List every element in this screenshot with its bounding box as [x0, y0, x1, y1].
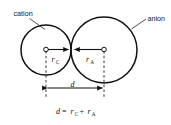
- anion-radius-label: r A: [86, 55, 94, 65]
- anion-leader-line: [132, 19, 147, 29]
- cation-leader-line: [30, 19, 46, 30]
- equation-term2-subscript: A: [92, 111, 96, 117]
- anion-label: anion: [148, 14, 166, 23]
- cation-radius-subscript: C: [56, 59, 60, 65]
- cation-radius-label: r C: [52, 55, 61, 65]
- equation-lhs: d: [56, 107, 61, 116]
- anion-radius-subscript: A: [90, 59, 94, 65]
- equation-plus-sign: +: [80, 107, 85, 116]
- equation: d = r C + r A: [56, 107, 96, 117]
- cation-label: cation: [14, 9, 33, 18]
- cation-radius-variable: r: [52, 55, 56, 64]
- equation-equals-sign: =: [62, 107, 67, 116]
- distance-label: d: [71, 80, 76, 89]
- diagram-canvas: cation anion r C r A d d = r C +: [0, 0, 171, 125]
- equation-term1-subscript: C: [75, 111, 79, 117]
- ionic-radii-figure: cation anion r C r A d d = r C +: [0, 0, 171, 125]
